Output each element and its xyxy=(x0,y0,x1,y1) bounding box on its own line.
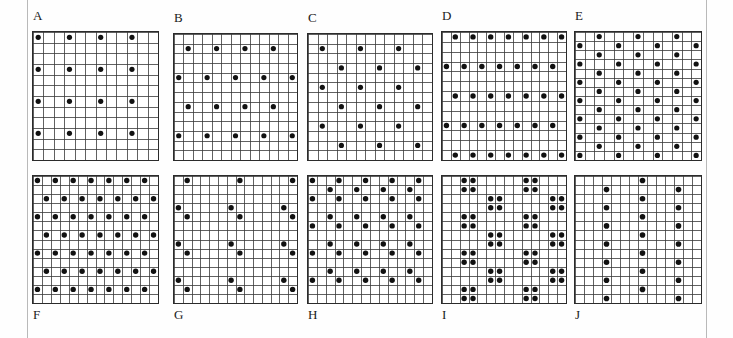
lattice-dot xyxy=(523,259,528,264)
lattice-dot xyxy=(635,34,640,39)
lattice-dot xyxy=(470,250,475,255)
lattice-dot xyxy=(674,52,679,57)
lattice-dot xyxy=(281,278,286,283)
lattice-dot xyxy=(186,46,191,51)
lattice-dot xyxy=(35,250,40,255)
lattice-dot xyxy=(577,43,582,48)
lattice-dot xyxy=(327,241,332,246)
panel-label-c: C xyxy=(308,11,317,24)
lattice-dot xyxy=(444,123,449,128)
lattice-dot xyxy=(35,178,40,183)
lattice-dot xyxy=(616,43,621,48)
lattice-dot xyxy=(106,287,111,292)
lattice-dot xyxy=(640,178,646,184)
lattice-dot xyxy=(461,259,466,264)
lattice-dot xyxy=(559,205,564,210)
lattice-dot xyxy=(604,205,610,211)
lattice-dot xyxy=(559,152,564,157)
lattice-dot xyxy=(186,104,191,109)
lattice-dot xyxy=(389,178,394,183)
lattice-dot xyxy=(320,85,325,90)
lattice-dot xyxy=(184,214,189,219)
lattice-dot xyxy=(577,135,582,140)
lattice-dot xyxy=(532,296,537,301)
lattice-dot xyxy=(604,223,610,229)
lattice-dot xyxy=(242,104,247,109)
lattice-dot xyxy=(242,46,247,51)
lattice-dot xyxy=(655,135,660,140)
lattice-dot xyxy=(597,144,602,149)
lattice-dot xyxy=(233,133,238,138)
lattice-dot xyxy=(327,214,332,219)
lattice-dot xyxy=(461,214,466,219)
lattice-dot xyxy=(488,196,493,201)
lattice-dot xyxy=(70,214,75,219)
lattice-dot xyxy=(470,296,475,301)
lattice-dot xyxy=(36,131,41,136)
lattice-dot xyxy=(497,196,502,201)
lattice-dot xyxy=(497,232,502,237)
lattice-dot xyxy=(363,223,368,228)
lattice-dot xyxy=(97,269,102,274)
lattice-dot xyxy=(124,178,129,183)
lattice-dot xyxy=(479,64,484,69)
lattice-dot xyxy=(389,223,394,228)
lattice-dot xyxy=(674,71,679,76)
lattice-dot xyxy=(88,178,93,183)
lattice-dot xyxy=(415,143,420,148)
lattice-dot xyxy=(640,250,646,256)
lattice-dot xyxy=(320,123,325,128)
lattice-dot xyxy=(523,152,528,157)
lattice-dot xyxy=(676,223,682,229)
lattice-dot xyxy=(214,104,219,109)
lattice-dot xyxy=(604,259,610,265)
lattice-dot xyxy=(228,205,233,210)
lattice-dot xyxy=(676,187,682,193)
lattice-dot xyxy=(640,232,646,238)
lattice-dot xyxy=(53,287,58,292)
lattice-dot xyxy=(310,250,315,255)
lattice-dot xyxy=(44,269,49,274)
lattice-dot xyxy=(124,287,129,292)
lattice-dot xyxy=(532,178,537,183)
lattice-dot xyxy=(461,64,466,69)
lattice-dot xyxy=(597,52,602,57)
lattice-dot xyxy=(597,71,602,76)
lattice-dot xyxy=(577,61,582,66)
lattice-dot xyxy=(655,98,660,103)
lattice-dot xyxy=(79,232,84,237)
lattice-dot xyxy=(290,250,295,255)
lattice-dot xyxy=(176,241,181,246)
lattice-dot xyxy=(53,250,58,255)
lattice-dot xyxy=(640,268,646,274)
lattice-dot xyxy=(597,34,602,39)
lattice-dot xyxy=(327,187,332,192)
lattice-dot xyxy=(44,232,49,237)
lattice-dot xyxy=(142,250,147,255)
lattice-dot xyxy=(381,187,386,192)
grid-c xyxy=(307,33,433,161)
lattice-dot xyxy=(523,250,528,255)
lattice-dot xyxy=(497,241,502,246)
lattice-dot xyxy=(470,152,475,157)
lattice-dot xyxy=(470,178,475,183)
frame-line-left xyxy=(27,0,28,338)
lattice-dot xyxy=(694,98,699,103)
panel-label-f: F xyxy=(33,308,40,321)
grid-a xyxy=(32,31,159,161)
lattice-dot xyxy=(67,99,72,104)
lattice-dot xyxy=(205,133,210,138)
lattice-dot xyxy=(36,35,41,40)
lattice-dot xyxy=(184,178,189,183)
lattice-dot xyxy=(488,278,493,283)
lattice-dot xyxy=(336,223,341,228)
lattice-dot xyxy=(70,250,75,255)
lattice-dot xyxy=(416,223,421,228)
lattice-dot xyxy=(559,241,564,246)
lattice-dot xyxy=(115,269,120,274)
lattice-dot xyxy=(655,80,660,85)
lattice-dot xyxy=(106,250,111,255)
lattice-dot xyxy=(577,98,582,103)
lattice-dot xyxy=(541,93,546,98)
lattice-dot xyxy=(142,214,147,219)
